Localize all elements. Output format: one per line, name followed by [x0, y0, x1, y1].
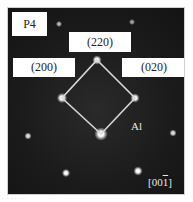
cropped-caption-top: · ·· ··: [2, 0, 22, 2]
panel-label: P4: [12, 12, 47, 36]
zone-axis-label: [001]: [148, 176, 172, 188]
reflection-label-020-text: (020): [141, 60, 167, 75]
panel-label-text: P4: [23, 17, 36, 32]
reflection-label-200: (200): [13, 58, 75, 77]
zone-axis-suffix: ]: [168, 176, 172, 188]
reflection-label-020: (020): [122, 58, 185, 77]
reflection-label-220: (220): [69, 32, 131, 52]
reflection-label-220-text: (220): [87, 35, 113, 50]
phase-label-text: Al: [131, 120, 142, 132]
phase-label: Al: [131, 120, 142, 132]
diffraction-pattern: P4 (220) (200) (020) Al [001]: [7, 7, 185, 195]
reflection-label-200-text: (200): [31, 60, 57, 75]
cropped-caption-bottom: · · ·· ···: [2, 196, 27, 201]
zone-axis-prefix: [00: [148, 176, 163, 188]
